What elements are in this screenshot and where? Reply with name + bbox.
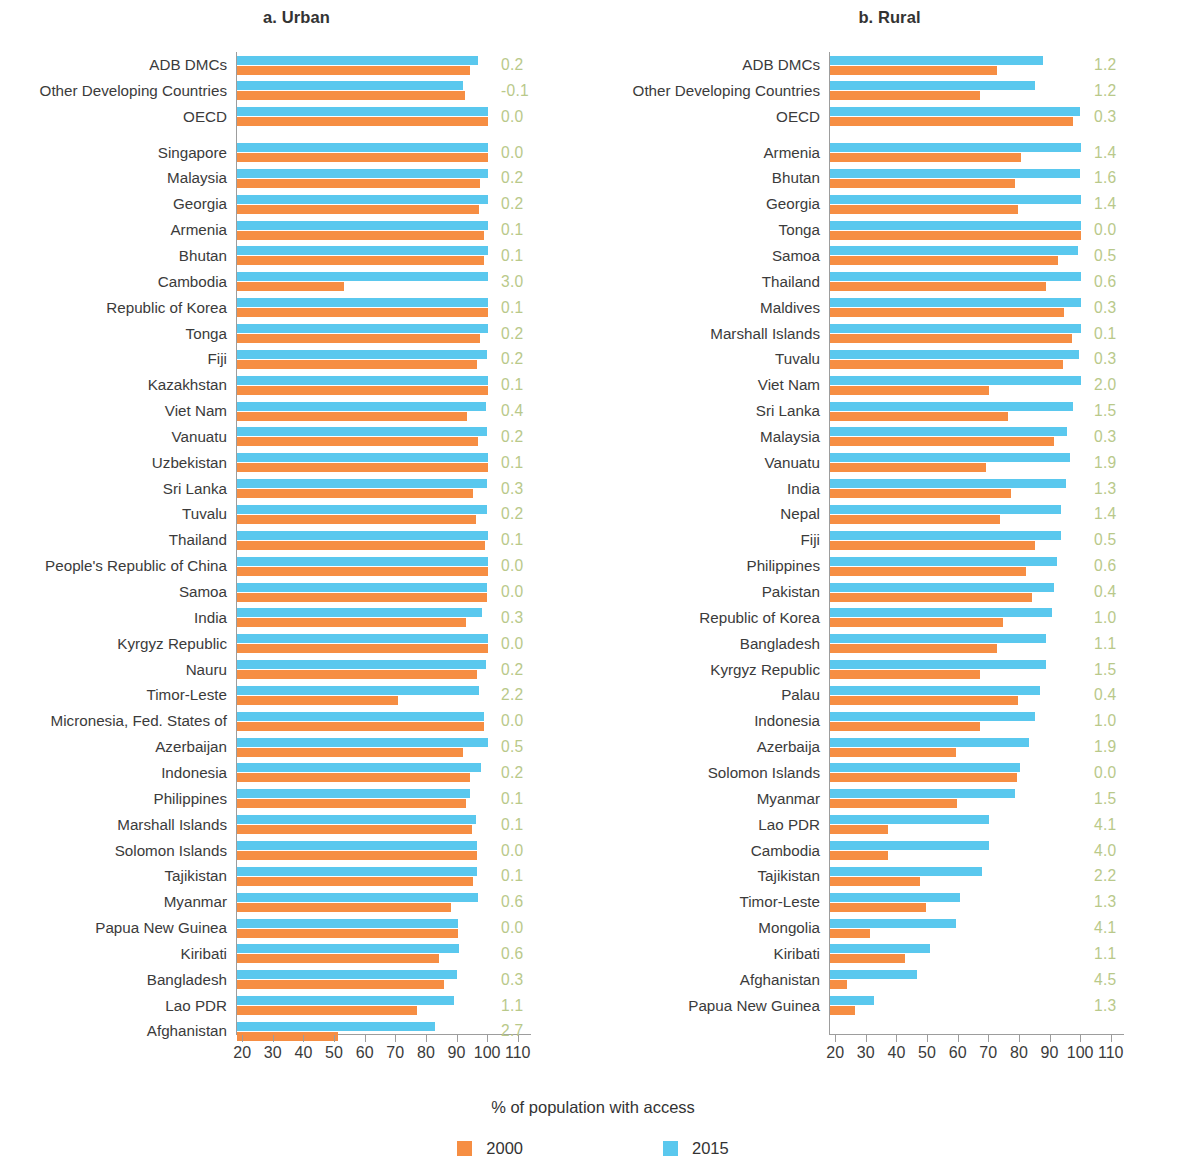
legend-swatch-2000-icon [457,1141,472,1156]
row-value-label: 0.6 [501,893,559,911]
category-label: Cambodia [751,842,820,859]
category-label: Tonga [779,221,820,238]
bar-2015 [830,867,982,876]
bar-2000 [237,773,470,782]
bar-2000 [830,334,1072,343]
bar-row: India0.3 [237,605,531,631]
category-label: Armenia [170,221,227,238]
row-value-label: 0.4 [501,402,559,420]
category-label: Micronesia, Fed. States of [51,712,227,729]
bar-row: Mongolia4.1 [830,915,1124,941]
x-tick-label: 50 [325,1044,343,1062]
row-value-label: 0.1 [501,531,559,549]
bar-2015 [237,944,459,953]
category-label: OECD [776,108,820,125]
bar-row: Kyrgyz Republic1.5 [830,657,1124,683]
category-label: Timor-Leste [740,893,820,910]
category-label: Kyrgyz Republic [710,661,820,678]
bar-2015 [830,402,1073,411]
bar-row: Maldives0.3 [830,295,1124,321]
row-value-label: 0.1 [501,221,559,239]
bar-2000 [237,117,488,126]
bar-2000 [830,903,926,912]
row-value-label: 0.1 [501,867,559,885]
category-label: Other Developing Countries [633,82,820,99]
row-value-label: 0.6 [1094,273,1152,291]
category-label: Azerbaijan [155,738,227,755]
x-tick [242,1035,243,1042]
x-axis-ticks-rural [829,1035,1124,1042]
x-tick [866,1035,867,1042]
bar-row: Republic of Korea0.1 [237,295,531,321]
x-axis-ticklabels-rural: 2030405060708090100110 [829,1044,1124,1068]
row-value-label: 0.2 [501,428,559,446]
bar-2015 [830,56,1043,65]
bar-2000 [237,670,477,679]
bar-row: India1.3 [830,476,1124,502]
row-value-label: 1.5 [1094,661,1152,679]
bar-2000 [237,231,484,240]
row-value-label: 0.3 [1094,428,1152,446]
x-tick-label: 30 [857,1044,875,1062]
bar-2000 [830,567,1026,576]
row-value-label: 0.3 [501,480,559,498]
bar-row: Nepal1.4 [830,501,1124,527]
x-tick [303,1035,304,1042]
category-label: Sri Lanka [163,480,227,497]
x-tick [1080,1035,1081,1042]
row-value-label: 1.0 [1094,712,1152,730]
category-label: Pakistan [762,583,820,600]
bar-row: Tajikistan2.2 [830,863,1124,889]
bar-2015 [830,557,1057,566]
bar-2015 [237,557,488,566]
bar-2000 [830,489,1011,498]
bar-row: Azerbaijan0.5 [237,734,531,760]
row-value-label: 0.0 [501,557,559,575]
row-value-label: 1.0 [1094,609,1152,627]
row-value-label: 0.1 [501,790,559,808]
bar-row: Micronesia, Fed. States of0.0 [237,708,531,734]
category-label: Fiji [801,531,820,548]
category-label: Lao PDR [758,816,820,833]
panel-rural-title: b. Rural [593,8,1186,27]
bar-2015 [237,867,477,876]
category-label: Viet Nam [758,376,820,393]
bar-row: Indonesia1.0 [830,708,1124,734]
bar-2015 [830,712,1035,721]
x-tick [1019,1035,1020,1042]
x-tick-label: 70 [386,1044,404,1062]
bar-2015 [830,996,874,1005]
x-tick [958,1035,959,1042]
bar-2015 [237,169,488,178]
bar-2000 [830,722,980,731]
row-value-label: 1.4 [1094,144,1152,162]
row-value-label: 0.3 [1094,299,1152,317]
bar-2000 [830,1006,855,1015]
category-label: Bangladesh [740,635,820,652]
x-axis-ticklabels-urban: 2030405060708090100110 [236,1044,531,1068]
bar-2000 [830,205,1018,214]
row-value-label: 0.0 [501,842,559,860]
bar-row: Lao PDR1.1 [237,993,531,1019]
row-value-label: 0.0 [501,144,559,162]
row-value-label: 0.4 [1094,686,1152,704]
bar-2000 [830,412,1008,421]
row-value-label: 4.1 [1094,919,1152,937]
bar-2000 [237,851,477,860]
category-label: Solomon Islands [708,764,820,781]
category-label: Tajikistan [165,867,227,884]
bar-2015 [237,970,457,979]
bar-2000 [830,231,1081,240]
bar-2015 [830,221,1081,230]
category-label: Tuvalu [182,505,227,522]
row-value-label: 0.2 [501,505,559,523]
bar-2015 [237,738,488,747]
bar-row: Bangladesh0.3 [237,967,531,993]
bar-row: Other Developing Countries1.2 [830,78,1124,104]
bar-2000 [830,799,957,808]
category-label: Republic of Korea [106,299,227,316]
x-tick-label: 90 [448,1044,466,1062]
category-label: India [787,480,820,497]
row-value-label: 2.0 [1094,376,1152,394]
bar-row: Papua New Guinea0.0 [237,915,531,941]
